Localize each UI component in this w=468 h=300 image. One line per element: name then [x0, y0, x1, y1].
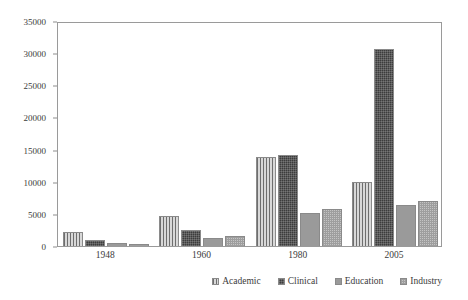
legend-item: Education: [335, 276, 384, 286]
x-axis: 1948196019802005: [57, 250, 442, 268]
x-axis-tick-label: 1948: [96, 250, 115, 260]
bar: [181, 230, 201, 246]
legend-label: Industry: [410, 276, 442, 286]
bar: [352, 182, 372, 246]
bar: [300, 213, 320, 246]
bar-group: [154, 23, 250, 246]
chart-legend: AcademicClinicalEducationIndustry: [57, 276, 442, 286]
y-axis-tick-label: 5000: [0, 210, 46, 219]
legend-item: Academic: [212, 276, 261, 286]
x-axis-tick-label: 1960: [192, 250, 211, 260]
y-axis-tick-label: 10000: [0, 178, 46, 187]
y-axis: 05000100001500020000250003000035000: [0, 0, 57, 270]
bar-group: [58, 23, 154, 246]
bar: [107, 243, 127, 246]
bar: [418, 201, 438, 246]
legend-label: Education: [345, 276, 384, 286]
legend-item: Industry: [400, 276, 442, 286]
legend-swatch-icon: [400, 278, 407, 285]
x-axis-tick-label: 1980: [288, 250, 307, 260]
bar: [63, 232, 83, 246]
legend-label: Clinical: [288, 276, 318, 286]
legend-swatch-icon: [212, 278, 219, 285]
y-axis-tick-label: 0: [0, 243, 46, 252]
plot-area: [57, 22, 442, 247]
chart-page: 05000100001500020000250003000035000 1948…: [0, 0, 468, 300]
bar: [374, 49, 394, 246]
x-axis-tick-label: 2005: [384, 250, 403, 260]
bar: [322, 209, 342, 246]
legend-swatch-icon: [335, 278, 342, 285]
bar: [85, 240, 105, 246]
y-axis-tick-label: 25000: [0, 82, 46, 91]
bar: [225, 236, 245, 246]
bar: [396, 205, 416, 246]
y-axis-tick-label: 35000: [0, 18, 46, 27]
bars-layer: [58, 23, 441, 246]
bar: [278, 155, 298, 246]
legend-item: Clinical: [278, 276, 318, 286]
legend-swatch-icon: [278, 278, 285, 285]
y-axis-tick-label: 20000: [0, 114, 46, 123]
bar: [159, 216, 179, 246]
y-axis-tick-label: 15000: [0, 146, 46, 155]
legend-label: Academic: [222, 276, 261, 286]
bar-group: [251, 23, 347, 246]
y-axis-tick-label: 30000: [0, 50, 46, 59]
bar-group: [347, 23, 443, 246]
bar: [256, 157, 276, 246]
bar: [129, 244, 149, 246]
bar: [203, 238, 223, 246]
